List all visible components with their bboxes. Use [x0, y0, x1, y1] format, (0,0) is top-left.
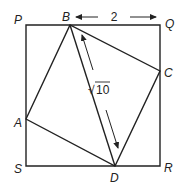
radical-sign: √ [88, 83, 95, 97]
label-r: R [164, 161, 173, 175]
dimension-bd-label: √ 10 [88, 82, 110, 97]
label-d: D [110, 171, 119, 185]
label-s: S [14, 162, 22, 176]
geometry-diagram: 2 √ 10 P B Q C A S D R [0, 0, 185, 194]
label-q: Q [165, 17, 174, 31]
label-c: C [164, 66, 173, 80]
label-b: B [62, 10, 70, 24]
dimension-bq: 2 [76, 10, 156, 24]
dimension-bq-label: 2 [111, 10, 118, 24]
radicand: 10 [96, 83, 110, 97]
label-a: A [13, 116, 22, 130]
label-p: P [14, 13, 22, 27]
dimension-bd: √ 10 [82, 35, 118, 148]
